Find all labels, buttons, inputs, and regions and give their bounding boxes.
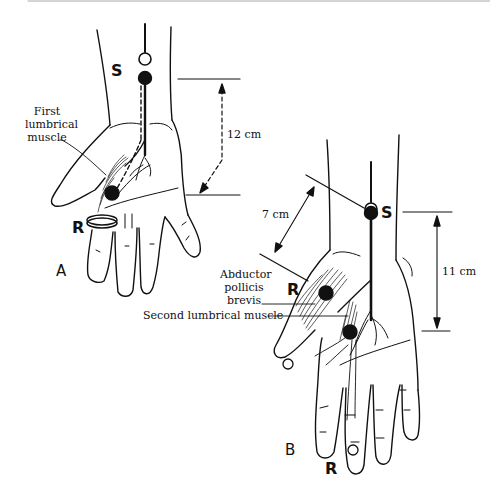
hand-a-outline	[51, 27, 200, 296]
muscle-label-line: muscle	[25, 131, 69, 144]
muscle-label-line: lumbrical	[25, 118, 69, 131]
nerve-conduction-diagram: S First lumbrical muscle 12 cm R A S 7 c…	[0, 0, 490, 495]
first-lumbrical-label: First lumbrical muscle	[25, 105, 69, 144]
thumb-ground-b	[283, 359, 293, 369]
panel-b-label: B	[285, 441, 295, 459]
distance-11cm-label: 11 cm	[442, 265, 476, 278]
recording-electrode-b-apb	[319, 286, 333, 300]
first-lumbrical-muscle	[98, 155, 128, 212]
distance-7cm-label: 7 cm	[262, 208, 289, 221]
second-lumbrical-label: Second lumbrical muscle	[143, 309, 283, 322]
recording-electrode-a	[105, 186, 119, 200]
muscle-label-line: First	[25, 105, 69, 118]
distance-12cm-label: 12 cm	[227, 128, 261, 141]
muscle-label-line: Abductor	[220, 268, 268, 281]
cathode-a	[139, 72, 152, 85]
muscle-label-line: brevis	[220, 294, 268, 307]
recording-label-a: R	[72, 218, 84, 237]
panel-a-label: A	[56, 262, 66, 280]
dimension-7cm	[260, 175, 364, 281]
anode-a	[139, 53, 151, 65]
first-lumbrical-leader	[60, 140, 106, 175]
recording-label-b-finger: R	[325, 459, 337, 478]
hand-b-outline	[274, 135, 419, 474]
recording-label-b-thenar: R	[287, 280, 299, 299]
recording-electrode-b-lumbrical	[343, 325, 357, 339]
stimulation-label-b: S	[381, 203, 393, 222]
cathode-b	[365, 207, 378, 220]
finger-electrode-b	[348, 445, 358, 455]
abductor-pollicis-brevis-label: Abductor pollicis brevis	[220, 268, 268, 307]
diagram-drawing	[0, 0, 490, 495]
stimulation-label-a: S	[111, 61, 123, 80]
muscle-label-line: pollicis	[220, 281, 268, 294]
median-nerve-a	[116, 24, 151, 190]
